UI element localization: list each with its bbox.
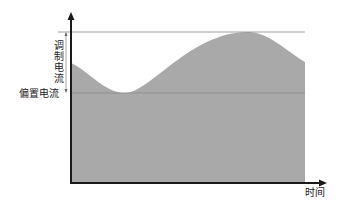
dimension-arrow-top-icon (65, 32, 68, 36)
current-area (71, 32, 305, 183)
time-axis-label: 时间 (305, 187, 325, 198)
dimension-arrow-bottom-icon (65, 89, 68, 93)
bias-current-label: 偏置电流 (19, 88, 59, 99)
waveform-diagram (0, 0, 343, 211)
modulation-current-label: 调制电流 (53, 40, 64, 84)
y-axis-arrow-icon (68, 12, 75, 20)
x-axis-arrow-icon (319, 180, 327, 187)
